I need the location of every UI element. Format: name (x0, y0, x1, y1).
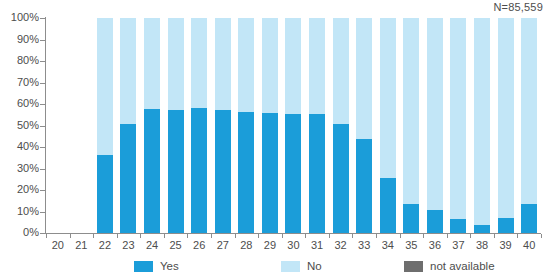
bar-group[interactable] (427, 18, 443, 233)
y-axis-tick-label: 10% (0, 206, 39, 217)
x-axis-tick-mark (376, 234, 377, 238)
legend-label: Yes (160, 260, 179, 273)
bar-segment-no[interactable] (144, 18, 160, 109)
bar-segment-yes[interactable] (380, 178, 396, 233)
bar-segment-no[interactable] (285, 18, 301, 114)
bar-segment-yes[interactable] (97, 155, 113, 233)
bar-group[interactable] (333, 18, 349, 233)
bar-segment-yes[interactable] (215, 110, 231, 233)
y-axis-tick-label: 30% (0, 163, 39, 174)
bar-segment-no[interactable] (262, 18, 278, 113)
bar-segment-no[interactable] (215, 18, 231, 110)
x-axis-tick-mark (423, 234, 424, 238)
bar-group[interactable] (215, 18, 231, 233)
bar-segment-yes[interactable] (403, 204, 419, 233)
bar-group[interactable] (144, 18, 160, 233)
legend-item[interactable]: No (281, 258, 322, 274)
legend-label: not available (430, 260, 495, 273)
y-axis-tick-label: 50% (0, 120, 39, 131)
bar-segment-no[interactable] (356, 18, 372, 139)
bar-group[interactable] (474, 18, 490, 233)
bar-segment-yes[interactable] (120, 124, 136, 233)
bar-segment-no[interactable] (380, 18, 396, 178)
y-axis-tick-mark (40, 190, 45, 191)
x-axis-tick-mark (46, 234, 47, 238)
bar-segment-yes[interactable] (498, 218, 514, 233)
legend-swatch-icon (134, 261, 153, 272)
y-axis-tick-label: 20% (0, 184, 39, 195)
x-axis-tick-mark (305, 234, 306, 238)
x-axis-tick-mark (517, 234, 518, 238)
x-axis-tick-mark (541, 234, 542, 238)
bar-segment-no[interactable] (403, 18, 419, 204)
bar-segment-yes[interactable] (521, 204, 537, 233)
bar-group[interactable] (498, 18, 514, 233)
bar-segment-no[interactable] (191, 18, 207, 108)
bar-segment-yes[interactable] (309, 114, 325, 233)
bar-segment-no[interactable] (474, 18, 490, 225)
bar-segment-yes[interactable] (450, 219, 466, 233)
bar-segment-no[interactable] (309, 18, 325, 114)
bar-segment-no[interactable] (168, 18, 184, 110)
bar-group[interactable] (403, 18, 419, 233)
x-axis-line (45, 233, 541, 234)
bar-group[interactable] (309, 18, 325, 233)
bar-group[interactable] (120, 18, 136, 233)
x-axis-tick-mark (352, 234, 353, 238)
x-axis-tick-mark (93, 234, 94, 238)
bar-group[interactable] (168, 18, 184, 233)
y-axis-tick-label: 70% (0, 77, 39, 88)
plot-area (46, 18, 541, 233)
bar-group[interactable] (450, 18, 466, 233)
x-axis-tick-mark (117, 234, 118, 238)
x-axis-tick-label: 40 (515, 239, 543, 252)
bar-segment-no[interactable] (427, 18, 443, 210)
bar-segment-yes[interactable] (333, 124, 349, 233)
chart-legend: YesNonot available (0, 258, 549, 276)
legend-item[interactable]: not available (404, 258, 495, 274)
bar-segment-yes[interactable] (168, 110, 184, 233)
bar-segment-yes[interactable] (191, 108, 207, 233)
legend-label: No (307, 260, 322, 273)
y-axis-tick-mark (40, 212, 45, 213)
bar-group[interactable] (191, 18, 207, 233)
bar-segment-no[interactable] (120, 18, 136, 124)
x-axis-tick-mark (258, 234, 259, 238)
bar-segment-no[interactable] (238, 18, 254, 112)
bar-segment-no[interactable] (498, 18, 514, 218)
x-axis-tick-mark (400, 234, 401, 238)
x-axis-tick-mark (187, 234, 188, 238)
bar-group[interactable] (356, 18, 372, 233)
bar-segment-no[interactable] (333, 18, 349, 124)
y-axis-tick-label: 0% (0, 227, 39, 238)
legend-item[interactable]: Yes (134, 258, 179, 274)
bar-segment-no[interactable] (521, 18, 537, 204)
bar-segment-yes[interactable] (262, 113, 278, 233)
y-axis-tick-mark (40, 104, 45, 105)
bar-segment-yes[interactable] (144, 109, 160, 233)
bar-segment-yes[interactable] (238, 112, 254, 233)
bar-segment-no[interactable] (450, 18, 466, 219)
y-axis-tick-mark (40, 233, 45, 234)
y-axis-tick-mark (40, 40, 45, 41)
bar-segment-yes[interactable] (285, 114, 301, 233)
bar-segment-no[interactable] (97, 18, 113, 155)
bar-group[interactable] (238, 18, 254, 233)
y-axis-tick-label: 40% (0, 141, 39, 152)
bar-group[interactable] (97, 18, 113, 233)
bar-segment-yes[interactable] (427, 210, 443, 233)
x-axis-tick-mark (235, 234, 236, 238)
bar-group[interactable] (380, 18, 396, 233)
x-axis-tick-mark (447, 234, 448, 238)
legend-swatch-icon (281, 261, 300, 272)
bar-group[interactable] (285, 18, 301, 233)
y-axis-tick-mark (40, 61, 45, 62)
bar-segment-yes[interactable] (474, 225, 490, 233)
y-axis-tick-mark (40, 169, 45, 170)
bar-group[interactable] (521, 18, 537, 233)
bar-group[interactable] (262, 18, 278, 233)
y-axis-tick-label: 60% (0, 98, 39, 109)
x-axis-tick-mark (211, 234, 212, 238)
x-axis-tick-mark (70, 234, 71, 238)
bar-segment-yes[interactable] (356, 139, 372, 233)
